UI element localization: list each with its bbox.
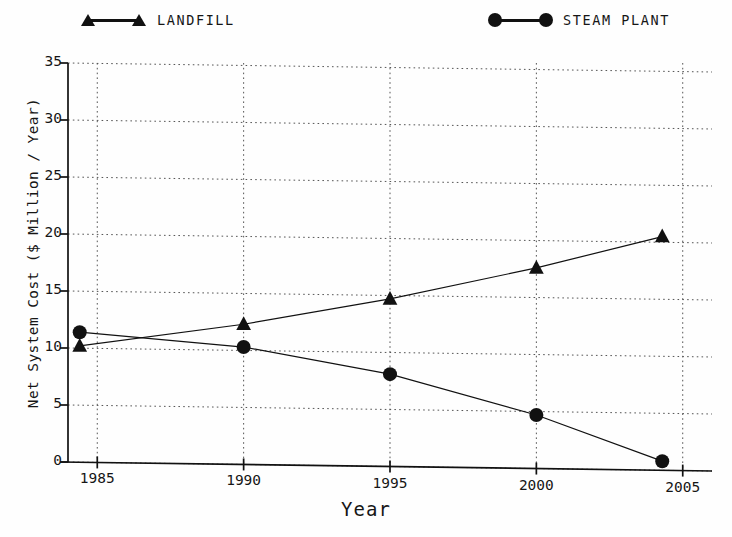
- x-tick-label: 2005: [643, 479, 723, 495]
- legend-label-landfill: LANDFILL: [157, 12, 235, 28]
- x-tick-label: 2000: [496, 477, 576, 493]
- y-axis-title: Net System Cost ($ Million / Year): [25, 83, 41, 423]
- circle-marker-icon: [490, 13, 552, 27]
- chart-legend: LANDFILL STEAM PLANT: [0, 0, 732, 44]
- x-tick-label: 1990: [204, 472, 284, 488]
- plot-area: [68, 63, 712, 462]
- legend-item-steam-plant: STEAM PLANT: [490, 9, 670, 31]
- data-point-marker-circle: [655, 454, 669, 468]
- x-axis-tick-labels: 19851990199520002005: [0, 470, 732, 496]
- data-point-marker-circle: [383, 367, 397, 381]
- legend-item-landfill: LANDFILL: [84, 9, 235, 31]
- data-point-marker-circle: [73, 325, 87, 339]
- series-line-steam-plant: [80, 332, 663, 461]
- data-point-marker-circle: [529, 408, 543, 422]
- x-tick-label: 1985: [57, 470, 137, 486]
- data-point-marker-circle: [237, 340, 251, 354]
- y-tick-label: 35: [28, 53, 62, 69]
- x-tick-label: 1995: [350, 475, 430, 491]
- triangle-marker-icon: [84, 13, 146, 27]
- chart-canvas: [68, 63, 712, 462]
- chart-page: LANDFILL STEAM PLANT 05101520253035 1985…: [0, 0, 732, 537]
- data-point-marker-triangle: [655, 229, 670, 243]
- legend-label-steam-plant: STEAM PLANT: [563, 12, 670, 28]
- series-line-landfill: [80, 237, 663, 346]
- x-axis-title: Year: [0, 498, 732, 520]
- y-tick-label: 0: [28, 452, 62, 468]
